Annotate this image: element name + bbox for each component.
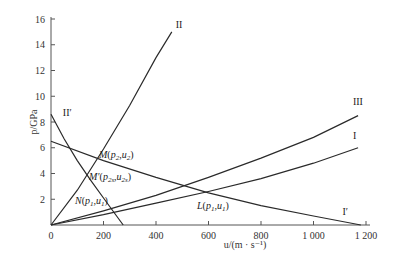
- annotation-part: ): [105, 195, 108, 207]
- annotation-part: M′: [88, 171, 100, 182]
- y-tick-label: 8: [40, 117, 45, 128]
- y-tick-label: 16: [35, 14, 45, 25]
- y-tick-label: 6: [40, 142, 45, 153]
- x-tick-label: 0: [49, 230, 54, 241]
- annotation-part: ): [225, 200, 228, 212]
- y-tick-label: 12: [35, 65, 45, 76]
- x-tick-label: 400: [149, 230, 164, 241]
- y-tick-label: 14: [35, 39, 45, 50]
- x-tick-label: 1 000: [302, 230, 325, 241]
- curve-label-iii: III: [353, 96, 363, 107]
- labels: IIII′IIIII′M(p2,u2)M′(p2s,u2s)N(p1,u1)L(…: [63, 19, 363, 217]
- curve-label-i: I: [353, 130, 356, 141]
- curve-label-ii: II: [176, 19, 183, 30]
- point-annotation: L(p1,u1): [196, 200, 229, 213]
- curve-label-i-prime: I′: [342, 206, 348, 217]
- y-tick-label: 2: [40, 194, 45, 205]
- annotation-part: ): [128, 171, 131, 183]
- point-annotation: M′(p2s,u2s): [88, 171, 131, 184]
- annotation-part: ): [130, 149, 133, 161]
- x-tick-label: 1 200: [355, 230, 378, 241]
- chart: 02004006008001 0001 200246810121416u/(m …: [0, 0, 396, 263]
- y-axis-label: p/GPa: [28, 109, 39, 135]
- x-axis-label: u/(m · s⁻¹): [224, 239, 267, 251]
- x-tick-label: 600: [201, 230, 216, 241]
- y-tick-label: 10: [35, 91, 45, 102]
- x-tick-label: 200: [96, 230, 111, 241]
- y-tick-label: 4: [40, 168, 45, 179]
- curve-label-ii-prime: II′: [63, 107, 72, 118]
